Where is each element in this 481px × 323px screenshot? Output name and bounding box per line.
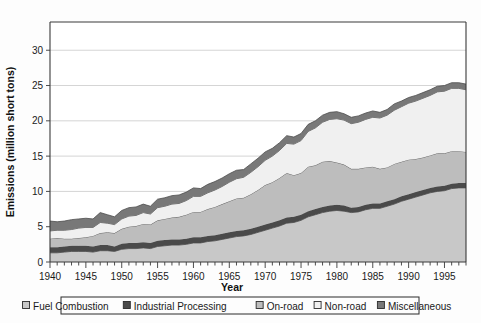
chart-figure: 051015202530 194019451950195519601965197… xyxy=(0,0,481,323)
x-tick-label: 1980 xyxy=(326,271,349,282)
x-tick-label: 1940 xyxy=(39,271,62,282)
legend-swatch xyxy=(256,302,263,309)
x-axis-title: Year xyxy=(221,281,243,293)
legend-label: Miscellaneous xyxy=(388,301,451,312)
x-tick-label: 1990 xyxy=(397,271,420,282)
x-axis-ticks: 1940194519501955196019651970197519801985… xyxy=(39,262,466,282)
y-tick-label: 20 xyxy=(32,115,44,126)
y-tick-label: 0 xyxy=(37,257,43,268)
x-tick-label: 1975 xyxy=(290,271,313,282)
x-tick-label: 1970 xyxy=(254,271,277,282)
y-axis-title: Emissions (million short tons) xyxy=(4,67,16,218)
y-tick-label: 5 xyxy=(37,221,43,232)
x-tick-label: 1985 xyxy=(362,271,385,282)
y-tick-label: 15 xyxy=(32,151,44,162)
legend-label: Industrial Processing xyxy=(134,301,227,312)
y-tick-label: 25 xyxy=(32,80,44,91)
y-axis-ticks: 051015202530 xyxy=(32,45,50,268)
legend-swatch xyxy=(377,302,384,309)
y-tick-label: 10 xyxy=(32,186,44,197)
legend-swatch xyxy=(314,302,321,309)
legend: Fuel CombustionIndustrial ProcessingOn-r… xyxy=(23,301,452,312)
legend-swatch xyxy=(123,302,130,309)
legend-label: Fuel Combustion xyxy=(33,301,109,312)
legend-swatch xyxy=(23,302,30,309)
x-tick-label: 1955 xyxy=(146,271,169,282)
x-tick-label: 1945 xyxy=(75,271,98,282)
x-tick-label: 1950 xyxy=(111,271,134,282)
x-tick-label: 1960 xyxy=(182,271,205,282)
y-tick-label: 30 xyxy=(32,45,44,56)
x-tick-label: 1995 xyxy=(433,271,456,282)
stacked-area-chart: 051015202530 194019451950195519601965197… xyxy=(0,0,481,323)
legend-label: Non-road xyxy=(325,301,367,312)
legend-label: On-road xyxy=(267,301,304,312)
